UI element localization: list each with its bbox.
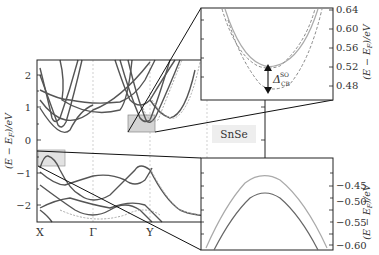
bottom-inset-frame [201, 158, 333, 250]
top-ytick-3: 0.52 [336, 61, 358, 72]
ytick-minus1: −1 [16, 168, 31, 179]
top-inset-ylabel: (E − EF)/eV [361, 23, 374, 80]
top-ytick-4: 0.48 [336, 80, 358, 91]
ytick-0: 0 [25, 135, 31, 146]
ytick-2: 2 [25, 70, 31, 81]
band-structure-figure: 2 1 0 −1 −2 X Γ Y (E − EF)/eV SnSe [0, 0, 379, 255]
kpoint-gamma: Γ [89, 226, 97, 239]
bottom-inset-vb: −0.45 −0.50 −0.55 −0.60 (E − EF)/eV [201, 158, 374, 251]
conduction-bands [40, 60, 195, 132]
bottom-inset-ylabel: (E − EF)/eV [361, 183, 374, 240]
top-ytick-0: 0.64 [336, 4, 358, 15]
main-ylabel: (E − EF)/eV [3, 112, 16, 169]
top-ytick-1: 0.60 [336, 23, 358, 34]
top-ytick-2: 0.56 [336, 42, 358, 53]
ytick-1: 1 [25, 102, 31, 113]
kpoint-x: X [36, 226, 44, 239]
material-label: SnSe [220, 128, 247, 140]
conduction-bands-nosoc [143, 60, 200, 121]
ytick-minus2: −2 [16, 200, 31, 211]
top-inset-cb: ΔCBSO 0.64 0.60 0.56 0.52 0.48 (E − EF)/… [201, 4, 374, 100]
bottom-ytick-3: −0.60 [336, 240, 367, 251]
kpoint-y: Y [145, 226, 154, 239]
